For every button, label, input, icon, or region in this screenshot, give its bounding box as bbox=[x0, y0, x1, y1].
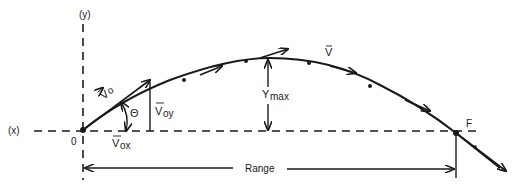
velocity-tangent-3 bbox=[330, 66, 356, 73]
projectile-diagram: (y) (x) 0 V o Θ V oy V ox V Y max F Rang… bbox=[0, 0, 515, 190]
vox-sub: ox bbox=[120, 140, 131, 151]
range-label: Range bbox=[245, 163, 275, 174]
trajectory-points bbox=[80, 59, 477, 149]
velocity-tangent-2 bbox=[260, 49, 288, 58]
angle-arc bbox=[121, 102, 127, 131]
velocity-label: V bbox=[325, 46, 333, 58]
velocity-tangent-4 bbox=[405, 100, 430, 111]
voy-sub: oy bbox=[163, 108, 174, 119]
initial-velocity-label: V o bbox=[98, 83, 116, 101]
x-axis-label: (x) bbox=[8, 125, 20, 136]
ymax-y: Y bbox=[262, 88, 270, 100]
final-velocity-arrow bbox=[456, 133, 506, 171]
vox-v: V bbox=[112, 137, 120, 149]
angle-label: Θ bbox=[130, 107, 139, 119]
landing-point-label: F bbox=[466, 118, 472, 129]
initial-velocity-vector bbox=[83, 80, 150, 130]
ymax-sub: max bbox=[270, 91, 289, 102]
y-axis-label: (y) bbox=[79, 9, 91, 20]
trajectory-curve bbox=[83, 58, 500, 168]
voy-v: V bbox=[155, 105, 163, 117]
origin-label: 0 bbox=[71, 136, 77, 147]
